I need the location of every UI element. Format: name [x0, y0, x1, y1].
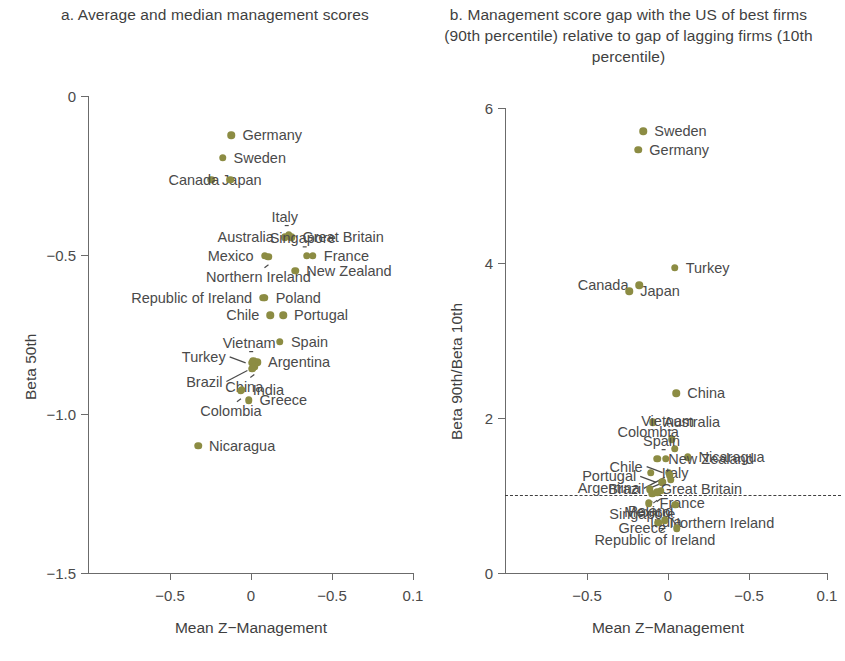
- data-point-nicaragua: [194, 442, 202, 450]
- data-point-label: Canada: [578, 277, 629, 293]
- data-point-label: Brazil: [608, 481, 644, 497]
- y-axis-tick-label: −0.5: [36, 247, 76, 264]
- data-point-sweden: [219, 154, 227, 162]
- y-axis-tick: [498, 263, 505, 264]
- y-axis-tick: [498, 108, 505, 109]
- data-point-label: Sweden: [654, 123, 706, 139]
- data-point-label: Italy: [271, 209, 298, 225]
- x-axis-tick: [587, 573, 588, 580]
- data-point-label: Turkey: [686, 260, 730, 276]
- data-point-label: Colombia: [200, 403, 261, 419]
- y-axis-tick: [81, 96, 88, 97]
- data-point-label: Poland: [276, 290, 321, 306]
- x-axis-tick-label: −0.5: [317, 587, 347, 604]
- y-axis-line: [505, 108, 506, 573]
- y-axis-tick: [81, 414, 88, 415]
- data-point-label: Spain: [643, 433, 680, 449]
- data-point-sweden: [640, 127, 648, 135]
- data-point-label: Germany: [242, 127, 302, 143]
- panel-a-title: a. Average and median management scores: [0, 4, 430, 25]
- x-axis-line: [505, 573, 827, 574]
- y-axis-tick-label: −1.0: [36, 406, 76, 423]
- data-point-india: [672, 501, 680, 509]
- x-axis-tick-label: 0: [247, 587, 255, 604]
- data-point-singapore: [649, 490, 657, 498]
- data-point-greece: [245, 397, 253, 405]
- x-axis-tick: [827, 573, 828, 580]
- y-axis-tick-label: 0: [36, 88, 76, 105]
- panel-b-title: b. Management score gap with the US of b…: [430, 4, 827, 67]
- y-axis-tick-label: 6: [453, 100, 493, 117]
- data-point-germany: [635, 146, 643, 154]
- data-point-turkey: [671, 264, 679, 272]
- data-point-republic-of-ireland: [259, 294, 267, 302]
- x-axis-tick-label: −0.5: [155, 587, 185, 604]
- x-axis-tick-label: 0.1: [403, 587, 424, 604]
- data-point-label: Northern Ireland: [669, 515, 774, 531]
- x-axis-tick: [332, 573, 333, 580]
- x-axis-title: Mean Z−Management: [175, 619, 327, 637]
- data-point-label: Argentina: [268, 354, 330, 370]
- y-axis-tick-label: 0: [453, 565, 493, 582]
- data-point-label: Greece: [260, 392, 308, 408]
- data-point-northern-ireland: [265, 253, 273, 261]
- y-axis-tick-label: 4: [453, 255, 493, 272]
- x-axis-tick: [251, 573, 252, 580]
- x-axis-tick: [749, 573, 750, 580]
- y-axis-tick: [498, 573, 505, 574]
- y-axis-tick: [81, 255, 88, 256]
- x-axis-tick-label: 0.1: [817, 587, 838, 604]
- data-point-colombia: [237, 387, 245, 395]
- data-point-label: Turkey: [182, 349, 226, 365]
- y-axis-line: [88, 96, 89, 573]
- data-point-label: Chile: [226, 307, 259, 323]
- y-axis-tick: [498, 418, 505, 419]
- data-point-label: Brazil: [186, 374, 222, 390]
- data-point-label: Sweden: [234, 150, 286, 166]
- x-axis-tick: [413, 573, 414, 580]
- x-axis-title: Mean Z−Management: [592, 619, 744, 637]
- y-axis-title: Beta 50th: [22, 334, 40, 400]
- data-point-label: Australia: [217, 229, 273, 245]
- data-point-france: [645, 500, 653, 508]
- x-axis-tick-label: −0.5: [572, 587, 602, 604]
- x-axis-tick: [668, 573, 669, 580]
- data-point-greece: [673, 525, 681, 533]
- data-point-label: Greece: [618, 520, 666, 536]
- data-point-label: New Zealand: [306, 263, 391, 279]
- x-axis-tick-label: −0.5: [734, 587, 764, 604]
- data-point-spain: [276, 338, 284, 346]
- y-axis-tick: [81, 573, 88, 574]
- data-point-label: Vietnam: [223, 335, 276, 351]
- y-axis-tick-label: −1.5: [36, 565, 76, 582]
- data-point-new-zealand: [654, 455, 662, 463]
- data-point-label: Spain: [291, 334, 328, 350]
- data-point-portugal: [279, 312, 287, 320]
- data-point-china: [672, 389, 680, 397]
- data-point-italy: [647, 469, 655, 477]
- x-axis-tick-label: 0: [664, 587, 672, 604]
- data-point-japan: [626, 288, 634, 296]
- data-point-germany: [228, 131, 236, 139]
- data-point-label: France: [324, 248, 369, 264]
- data-point-label: Mexico: [208, 248, 254, 264]
- data-point-label: France: [660, 495, 705, 511]
- data-point-label: Japan: [640, 283, 680, 299]
- data-point-label: Portugal: [294, 307, 348, 323]
- data-point-france: [309, 252, 317, 260]
- data-point-new-zealand: [291, 267, 299, 275]
- data-point-brazil: [249, 365, 257, 373]
- panel-a-average-median-scores: a. Average and median management scores …: [0, 0, 430, 661]
- data-point-label: Germany: [649, 142, 709, 158]
- x-axis-tick: [170, 573, 171, 580]
- y-axis-title: Beta 90th/Beta 10th: [448, 303, 466, 440]
- data-point-label: Singapore: [270, 230, 336, 246]
- data-point-label: China: [687, 385, 725, 401]
- panel-b-score-gap: b. Management score gap with the US of b…: [430, 0, 827, 661]
- data-point-label: Nicaragua: [209, 438, 275, 454]
- data-point-label: Republic of Ireland: [131, 290, 252, 306]
- data-point-chile: [267, 312, 275, 320]
- data-point-canada: [226, 176, 234, 184]
- data-point-label: Canada: [168, 172, 219, 188]
